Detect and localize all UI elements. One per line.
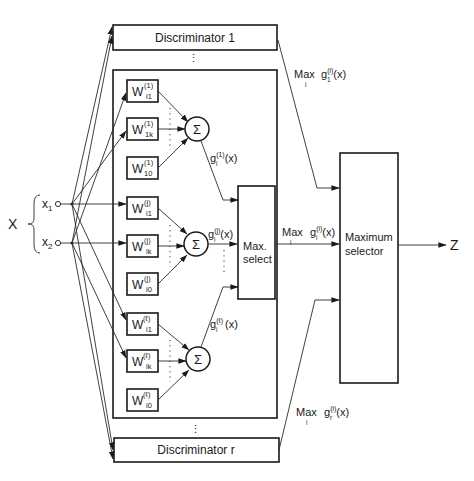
svg-text:W: W: [132, 123, 144, 137]
input-x1-terminal: [55, 201, 60, 206]
input-vector: X x1 x2: [8, 195, 74, 253]
svg-text:i1: i1: [146, 325, 152, 334]
svg-text:(1): (1): [144, 158, 154, 167]
svg-text:r: r: [330, 414, 333, 421]
discriminator-r-box: Discriminator r: [114, 438, 279, 462]
svg-text:1k: 1k: [145, 130, 153, 139]
svg-text:(j): (j): [144, 236, 151, 245]
svg-text:Max: Max: [296, 406, 317, 418]
svg-text:(ℓ): (ℓ): [143, 390, 151, 399]
input-brace: [28, 195, 40, 253]
svg-text:(1): (1): [144, 119, 154, 128]
max-output-j: Max i g(i)(x) i: [275, 225, 339, 246]
svg-text:W: W: [132, 85, 144, 99]
svg-text:ik: ik: [146, 247, 152, 256]
svg-text:i: i: [306, 419, 307, 426]
svg-text:W: W: [132, 240, 144, 254]
svg-text:i0: i0: [146, 401, 152, 410]
svg-text:ik: ik: [146, 362, 152, 371]
svg-text:W: W: [132, 202, 144, 216]
ellipsis-top: ⋮: [188, 52, 199, 64]
discriminator-1-label: Discriminator 1: [155, 31, 235, 45]
max-output-1: Max i g(i)(x) 1: [278, 40, 346, 188]
svg-text:Σ: Σ: [193, 122, 201, 137]
svg-text:Σ: Σ: [194, 352, 202, 367]
classifier-diagram: Discriminator 1 ⋮ Discriminator r ⋮ X x1…: [0, 0, 474, 481]
svg-text:Maximum: Maximum: [345, 231, 393, 243]
svg-text:i1: i1: [146, 92, 152, 101]
group-j-output-label: g(j)(x): [208, 227, 233, 240]
svg-text:10: 10: [144, 169, 152, 178]
svg-text:i0: i0: [146, 285, 152, 294]
svg-text:selector: selector: [345, 245, 384, 257]
svg-text:g(i)(x): g(i)(x): [324, 405, 349, 418]
input-x2: x2: [42, 235, 53, 251]
max-output-r: Max i g(i)(x) r: [279, 300, 349, 450]
svg-text:i: i: [216, 160, 217, 167]
svg-text:i: i: [214, 236, 215, 243]
svg-text:i: i: [305, 81, 306, 88]
svg-text:W: W: [132, 162, 144, 176]
svg-text:i: i: [216, 326, 217, 333]
svg-text:i1: i1: [146, 209, 152, 218]
discriminator-1-box: Discriminator 1: [113, 25, 277, 50]
svg-text:Max: Max: [282, 226, 303, 238]
svg-text:Max: Max: [294, 68, 315, 80]
svg-text:W: W: [132, 278, 144, 292]
output-z-label: Z: [450, 237, 459, 253]
svg-text:g(i)(x): g(i)(x): [310, 225, 335, 238]
input-vector-label: X: [8, 216, 18, 232]
svg-text:(ℓ): (ℓ): [143, 351, 151, 360]
svg-text:(ℓ): (ℓ): [143, 314, 151, 323]
svg-text:i: i: [316, 234, 317, 241]
svg-text:i: i: [290, 239, 291, 246]
discriminator-r-label: Discriminator r: [157, 443, 234, 457]
svg-text:(j): (j): [144, 198, 151, 207]
input-x2-terminal: [55, 240, 60, 245]
svg-text:g(i)(x): g(i)(x): [321, 67, 346, 80]
maximum-selector-box: Maximum selector: [340, 153, 398, 383]
group-1-output-label: g(1)(x): [210, 151, 238, 164]
svg-text:(1): (1): [144, 81, 154, 90]
svg-text:Σ: Σ: [192, 237, 200, 252]
svg-text:(j): (j): [144, 274, 151, 283]
input-x1: x1: [42, 197, 53, 213]
output-z: Z: [398, 237, 459, 253]
svg-text:1: 1: [327, 76, 331, 83]
svg-text:select: select: [243, 253, 272, 265]
ellipsis-bottom: ⋮: [190, 423, 201, 435]
svg-text:Max.: Max.: [243, 240, 267, 252]
max-select-box: Max. select: [238, 186, 275, 299]
